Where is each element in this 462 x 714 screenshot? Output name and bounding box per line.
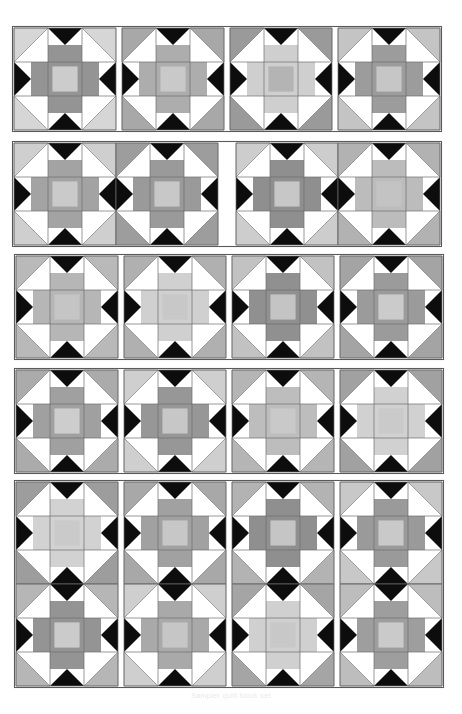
block-strip-3	[13, 253, 445, 361]
block-strip-5	[13, 479, 445, 689]
quilt-block-group	[13, 479, 445, 689]
quilt-block	[340, 482, 442, 584]
quilt-block	[16, 256, 118, 358]
quilt-block	[122, 28, 224, 130]
quilt-block	[124, 370, 226, 472]
quilt-block	[232, 584, 334, 686]
block-strip-1	[11, 25, 443, 133]
quilt-block	[16, 370, 118, 472]
quilt-block	[230, 28, 332, 130]
quilt-block	[124, 482, 226, 584]
quilt-block	[14, 143, 116, 245]
quilt-block-group	[11, 25, 443, 133]
quilt-block-group	[13, 253, 445, 361]
quilt-block-group	[13, 367, 445, 475]
quilt-block-group	[11, 140, 443, 248]
quilt-block	[14, 28, 116, 130]
block-strip-2	[11, 140, 443, 248]
quilt-block	[124, 584, 226, 686]
quilt-block	[340, 370, 442, 472]
quilt-block	[232, 482, 334, 584]
page-caption: Sampler quilt block set	[0, 692, 462, 699]
quilt-block	[236, 143, 338, 245]
quilt-block	[338, 28, 440, 130]
quilt-pattern-page: Sampler quilt block set	[0, 0, 462, 714]
quilt-block	[340, 584, 442, 686]
quilt-block	[232, 256, 334, 358]
quilt-block	[16, 584, 118, 686]
quilt-block	[16, 482, 118, 584]
quilt-block	[338, 143, 440, 245]
quilt-block	[116, 143, 218, 245]
block-strip-4	[13, 367, 445, 475]
quilt-block	[340, 256, 442, 358]
quilt-block	[232, 370, 334, 472]
quilt-block	[124, 256, 226, 358]
